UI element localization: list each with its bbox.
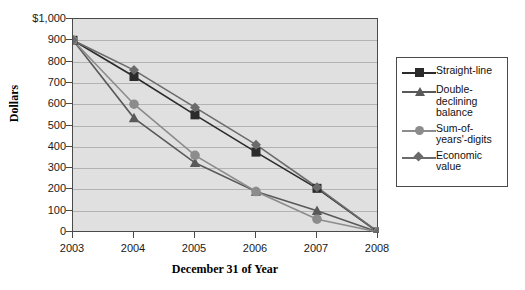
y-tick-label: 600: [48, 97, 66, 109]
y-tick-label: 900: [48, 33, 66, 45]
legend-marker-square-icon: [402, 66, 436, 80]
x-axis-title: December 31 of Year: [72, 262, 378, 277]
y-axis-title: Dollars: [7, 64, 22, 144]
chart-legend: Straight-line Double-declining balance S…: [396, 57, 508, 187]
y-tick-label: $1,000: [32, 12, 66, 24]
legend-label: Sum-of-years'-digits: [436, 123, 502, 146]
y-tick-label: 200: [48, 182, 66, 194]
y-tick-label: 500: [48, 119, 66, 131]
legend-marker-triangle-icon: [402, 85, 436, 99]
data-point-marker: [312, 214, 322, 224]
chart-figure: Dollars $1,00090080070060050040030020010…: [0, 0, 525, 290]
legend-item-double-declining-balance: Double-declining balance: [402, 84, 502, 119]
x-tick-label: 2003: [60, 242, 84, 254]
x-tick-label: 2004: [121, 242, 145, 254]
plot-area: [72, 18, 378, 232]
series-line: [73, 40, 378, 232]
data-point-marker: [251, 187, 261, 197]
y-tick-label: 700: [48, 76, 66, 88]
x-tick-mark: [255, 232, 256, 238]
x-tick-mark: [72, 232, 73, 238]
legend-item-economic-value: Economic value: [402, 150, 502, 173]
x-tick-label: 2005: [182, 242, 206, 254]
x-tick-label: 2006: [243, 242, 267, 254]
y-tick-label: 800: [48, 55, 66, 67]
x-tick-mark: [377, 232, 378, 238]
data-point-marker: [129, 99, 139, 109]
x-tick-mark: [194, 232, 195, 238]
x-tick-label: 2008: [365, 242, 389, 254]
legend-marker-circle-icon: [402, 124, 436, 138]
y-tick-label: 100: [48, 204, 66, 216]
data-point-marker: [190, 151, 200, 161]
x-tick-label: 2007: [304, 242, 328, 254]
series-line: [73, 40, 378, 232]
x-tick-mark: [316, 232, 317, 238]
series-line: [73, 40, 378, 232]
legend-marker-diamond-icon: [402, 151, 436, 165]
legend-label: Straight-line: [436, 65, 492, 77]
y-axis: Dollars $1,00090080070060050040030020010…: [0, 0, 72, 252]
series-layer: [73, 19, 379, 233]
legend-label: Economic value: [436, 150, 502, 173]
legend-item-sum-of-years-digits: Sum-of-years'-digits: [402, 123, 502, 146]
legend-label: Double-declining balance: [436, 84, 502, 119]
legend-item-straight-line: Straight-line: [402, 65, 502, 80]
y-tick-label: 300: [48, 161, 66, 173]
series-line: [73, 40, 378, 232]
y-tick-label: 400: [48, 140, 66, 152]
x-tick-mark: [133, 232, 134, 238]
